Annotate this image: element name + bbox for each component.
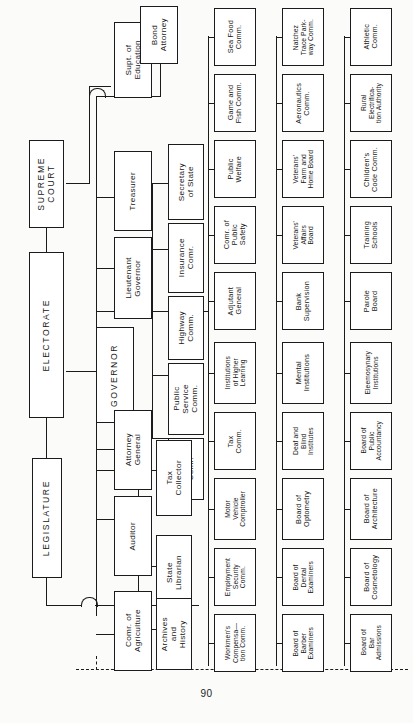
node-electorate[interactable]: ELECTORATE [29,252,64,418]
node-row-a-1[interactable]: Game and Fish Comm. [214,74,256,132]
node-row-c-0[interactable]: Athletic Comm. [350,8,392,66]
node-row-a-7[interactable]: Motor Vehicle Comptroller [214,478,256,540]
node-label: Board of Barber Examiners [292,627,315,660]
node-lieutenant-governor[interactable]: Lieutenant Governor [114,237,152,319]
node-label: Lieutenant Governor [124,257,142,299]
node-label: Board of Architecture [363,488,379,529]
node-row-a-4[interactable]: Adjutant General [214,272,256,330]
node-label: Board of Public Accountancy [360,421,383,460]
node-row-a-2[interactable]: Public Welfare [214,140,256,198]
node-comr-agriculture[interactable]: Comr. of Agriculture [114,591,152,671]
node-label: Public Welfare [227,156,243,182]
node-label: Motor Vehicle Comptroller [224,491,247,527]
node-row-a-9[interactable]: Workmen's Compensa— tion Comm. [214,614,256,672]
node-row-b-3[interactable]: Veterans' Affairs Board [282,206,324,264]
node-label: Employment Security Comm. [224,558,247,596]
node-row-a-5[interactable]: Institutions of Higher Learning [214,342,256,404]
node-label: Board of Bar Admissions [360,625,383,660]
node-row-b-1[interactable]: Aeronautics Comm. [282,74,324,132]
connector-supreme-court-stub [66,183,90,184]
node-row-b-9[interactable]: Board of Barber Examiners [282,614,324,672]
node-auditor[interactable]: Auditor [114,496,152,576]
stub-secretary-of-state [152,183,168,184]
node-label: Deaf and Blind Institutes [292,427,315,455]
stub-treasurer [96,197,114,198]
node-row-a-3[interactable]: Comr. of Public Safety [214,206,256,264]
node-label: Insurance Comr. [177,238,195,277]
node-row-b-2[interactable]: Veterans' Farm and Home Board [282,140,324,198]
node-label: Bond Attorney [150,18,168,51]
node-row-b-0[interactable]: Natchez Trace Park- way Comm. [282,8,324,66]
node-secretary-of-state[interactable]: Secretary of State [168,144,204,220]
node-label: Board of Optometry [295,491,311,527]
node-label: Workmen's Compensa— tion Comm. [224,623,247,663]
node-public-service-comm[interactable]: Public Service Comm. [168,363,204,435]
node-row-c-1[interactable]: Rural Electrifica- tion Authority [350,74,392,132]
node-highway-comm[interactable]: Highway Comm. [168,296,204,360]
node-label: Game and Fish Comm. [227,82,243,123]
node-archives-history[interactable]: Archives and History [156,598,192,670]
stub-insurance-comr [152,249,168,250]
node-tax-collector[interactable]: Tax Collector [156,440,192,516]
connector-legislature-baseline [46,605,82,606]
node-label: Eleemosynary Institutions [364,351,379,395]
node-label: Tax Collector [165,460,183,496]
node-row-a-6[interactable]: Tax Comm. [214,412,256,470]
agriculture-dashed-drop [96,656,97,670]
stub-public-service-comm [152,375,168,376]
node-row-b-7[interactable]: Board of Optometry [282,478,324,540]
node-row-b-6[interactable]: Deaf and Blind Institutes [282,412,324,470]
node-label: Aeronautics Comm. [295,83,311,124]
connector-supreme-court-to-supt [89,86,111,87]
connector-electorate-legislature [46,418,47,458]
node-row-c-3[interactable]: Training Schools [350,206,392,264]
rail-c-trunk [344,36,345,666]
node-row-c-7[interactable]: Board of Architecture [350,478,392,540]
page-number: 90 [0,688,413,699]
stub-attorney-general [96,449,114,450]
node-row-c-8[interactable]: Board of Cosmetology [350,548,392,606]
node-label: Veterans' Farm and Home Board [292,150,315,189]
node-label: Board of Dental Examiners [292,561,315,594]
node-label: Adjutant General [227,287,243,315]
node-label: Tax Comm. [227,429,243,454]
node-label: Children's Code Comm. [363,147,379,192]
node-attorney-general[interactable]: Attorney General [114,410,152,490]
node-row-b-5[interactable]: Mental Institutions [282,342,324,404]
node-row-a-0[interactable]: Sea Food Comm. [214,8,256,66]
stub-auditor [96,519,114,520]
node-label: Attorney General [124,433,142,466]
node-label: Comr. of Agriculture [124,609,142,652]
node-label: Board of Cosmetology [363,555,379,600]
node-row-b-8[interactable]: Board of Dental Examiners [282,548,324,606]
node-label: Bank Supervision [295,281,311,321]
node-label: Highway Comm. [177,311,195,345]
node-governor[interactable]: GOVERNOR [96,327,134,423]
node-legislature[interactable]: LEGISLATURE [32,458,62,578]
rail-b-trunk [276,36,277,666]
node-label: Rural Electrifica- tion Authority [360,83,383,123]
node-bond-attorney[interactable]: Bond Attorney [140,6,178,64]
node-row-c-6[interactable]: Board of Public Accountancy [350,412,392,470]
node-row-c-2[interactable]: Children's Code Comm. [350,140,392,198]
connector-supreme-court-riser [89,86,90,184]
node-label: Veterans' Affairs Board [292,221,315,250]
node-row-b-4[interactable]: Bank Supervision [282,272,324,330]
node-row-c-4[interactable]: Parole Board [350,272,392,330]
node-label: Treasurer [128,172,137,210]
connector-electorate-governor [66,371,96,372]
node-label: Sea Food Comm. [227,20,243,53]
node-supreme-court[interactable]: SUPREME COURT [29,140,64,228]
node-row-a-8[interactable]: Employment Security Comm. [214,548,256,606]
node-treasurer[interactable]: Treasurer [114,151,152,231]
node-insurance-comr[interactable]: Insurance Comr. [168,223,204,293]
stub-comr-agriculture [96,634,114,635]
node-label: State Librarian [165,555,183,590]
org-chart-page: SUPREME COURT ELECTORATE LEGISLATURE GOV… [0,0,413,723]
node-label: LEGISLATURE [42,480,52,556]
node-label: Mental Institutions [295,354,311,391]
node-row-c-9[interactable]: Board of Bar Admissions [350,614,392,672]
node-label: GOVERNOR [110,344,120,407]
node-label: Natchez Trace Park- way Comm. [292,19,315,55]
node-row-c-5[interactable]: Eleemosynary Institutions [350,342,392,404]
